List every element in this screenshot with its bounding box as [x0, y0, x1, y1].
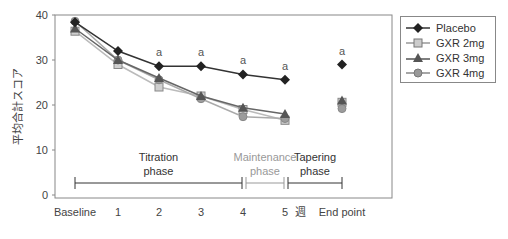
significance-marker: a — [240, 54, 247, 66]
legend-label: Placebo — [436, 22, 476, 34]
y-axis: 010203040 — [36, 9, 55, 201]
legend-label: GXR 4mg — [436, 67, 484, 79]
triangle-marker-icon — [405, 52, 431, 64]
x-axis: Baseline12345End point週 — [54, 206, 365, 218]
significance-marker: a — [156, 46, 163, 58]
significance-marker: a — [339, 45, 346, 57]
series-line — [75, 29, 285, 115]
significance-annotations: aaaaa — [156, 45, 346, 72]
legend-item-gxr-3mg: GXR 3mg — [405, 50, 491, 65]
phase-brackets: TitrationphaseMaintenancephaseTaperingph… — [75, 151, 342, 189]
y-tick-label: 0 — [42, 189, 48, 201]
phase-label: phase — [144, 165, 174, 177]
phase-label: phase — [250, 165, 280, 177]
y-tick-label: 30 — [36, 54, 48, 66]
circle-marker-icon — [338, 105, 346, 113]
x-tick-label: 4 — [240, 206, 246, 218]
diamond-marker-icon — [405, 22, 431, 34]
legend-item-gxr-2mg: GXR 2mg — [405, 35, 491, 50]
data-series — [70, 17, 347, 124]
y-tick-label: 10 — [36, 144, 48, 156]
x-tick-label: 3 — [198, 206, 204, 218]
phase-label: phase — [300, 165, 330, 177]
diamond-marker-icon — [280, 75, 290, 85]
x-tick-label: 2 — [156, 206, 162, 218]
legend-item-placebo: Placebo — [405, 20, 491, 35]
x-tick-label: 5 — [282, 206, 288, 218]
diamond-marker-icon — [196, 61, 206, 71]
circle-marker-icon — [239, 113, 247, 121]
phase-label: Titration — [139, 151, 178, 163]
phase-label: Maintenance — [234, 151, 297, 163]
diamond-marker-icon — [154, 61, 164, 71]
y-axis-label: 平均合計スコア — [11, 68, 24, 145]
y-tick-label: 40 — [36, 9, 48, 21]
legend: Placebo GXR 2mg GXR 3mg GXR 4mg — [400, 16, 496, 83]
diamond-marker-icon — [238, 69, 248, 79]
phase-label: Tapering — [294, 151, 336, 163]
x-tick-label: End point — [319, 206, 365, 218]
x-unit-label: 週 — [295, 206, 306, 218]
square-marker-icon — [405, 37, 431, 49]
significance-marker: a — [198, 46, 205, 58]
significance-marker: a — [282, 60, 289, 72]
y-tick-label: 20 — [36, 99, 48, 111]
x-tick-label: Baseline — [54, 206, 96, 218]
legend-label: GXR 3mg — [436, 52, 484, 64]
circle-marker-icon — [405, 67, 431, 79]
legend-label: GXR 2mg — [436, 37, 484, 49]
diamond-marker-icon — [113, 46, 123, 56]
legend-item-gxr-4mg: GXR 4mg — [405, 65, 491, 80]
series-line — [75, 21, 285, 118]
diamond-marker-icon — [337, 60, 347, 70]
x-tick-label: 1 — [115, 206, 121, 218]
